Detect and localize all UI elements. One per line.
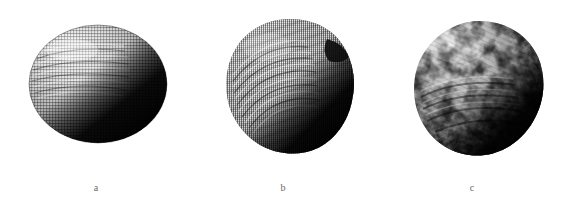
panel-label-c: c — [452, 182, 492, 194]
figure-canvas: a — [0, 0, 577, 199]
sphere-render-a — [28, 24, 168, 144]
sphere-a-graphic — [28, 24, 168, 144]
sphere-render-c — [411, 19, 547, 159]
figure-panel-b: b — [192, 0, 384, 199]
sphere-b-graphic — [223, 17, 357, 156]
panel-label-a: a — [76, 182, 116, 194]
figure-panel-c: c — [384, 0, 577, 199]
panel-label-b: b — [263, 182, 303, 194]
sphere-c-graphic — [411, 19, 547, 159]
figure-panel-a: a — [0, 0, 192, 199]
sphere-render-b — [223, 17, 357, 156]
